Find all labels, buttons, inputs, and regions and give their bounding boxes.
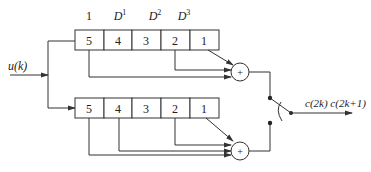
commutator-switch — [268, 96, 293, 125]
bottom-tap-5 — [89, 118, 231, 155]
bottom-cell-1-label: 1 — [201, 102, 207, 116]
top-tap-2 — [175, 50, 231, 70]
top-cell-3-label: 3 — [143, 34, 149, 48]
encoder-diagram: 1 D1 D2 D3 u(k) 5 4 3 2 1 + 5 4 3 — [0, 0, 371, 172]
top-cell-2-label: 2 — [172, 34, 178, 48]
delay-labels: 1 D1 D2 D3 — [86, 8, 190, 23]
delay-label-d1: D1 — [113, 8, 127, 23]
switch-contact-bottom — [268, 121, 272, 125]
top-adder-output — [249, 72, 270, 98]
bottom-shift-register: 5 4 3 2 1 — [75, 98, 219, 118]
top-cell-4-label: 4 — [115, 34, 121, 48]
bottom-adder-output — [249, 122, 270, 151]
delay-label-d2: D2 — [148, 8, 162, 23]
input-bus — [48, 41, 75, 108]
bottom-cell-4-label: 4 — [115, 102, 121, 116]
top-tap-5 — [89, 50, 231, 77]
top-tap-1 — [208, 50, 233, 65]
top-cell-5-label: 5 — [86, 34, 92, 48]
bottom-cell-3-label: 3 — [143, 102, 149, 116]
bottom-taps — [89, 118, 233, 155]
delay-label-1: 1 — [86, 9, 92, 23]
input-label: u(k) — [8, 59, 27, 73]
bottom-cell-2-label: 2 — [172, 102, 178, 116]
output-label: c(2k) c(2k+1) — [305, 97, 366, 110]
switch-arm — [270, 98, 291, 113]
bottom-tap-1 — [206, 118, 233, 141]
bottom-cell-5-label: 5 — [86, 102, 92, 116]
top-taps — [89, 50, 233, 77]
top-shift-register: 5 4 3 2 1 — [75, 30, 219, 50]
bottom-adder-symbol: + — [237, 146, 243, 157]
top-cell-1-label: 1 — [201, 34, 207, 48]
top-adder-symbol: + — [237, 67, 243, 78]
delay-label-d3: D3 — [177, 8, 191, 23]
